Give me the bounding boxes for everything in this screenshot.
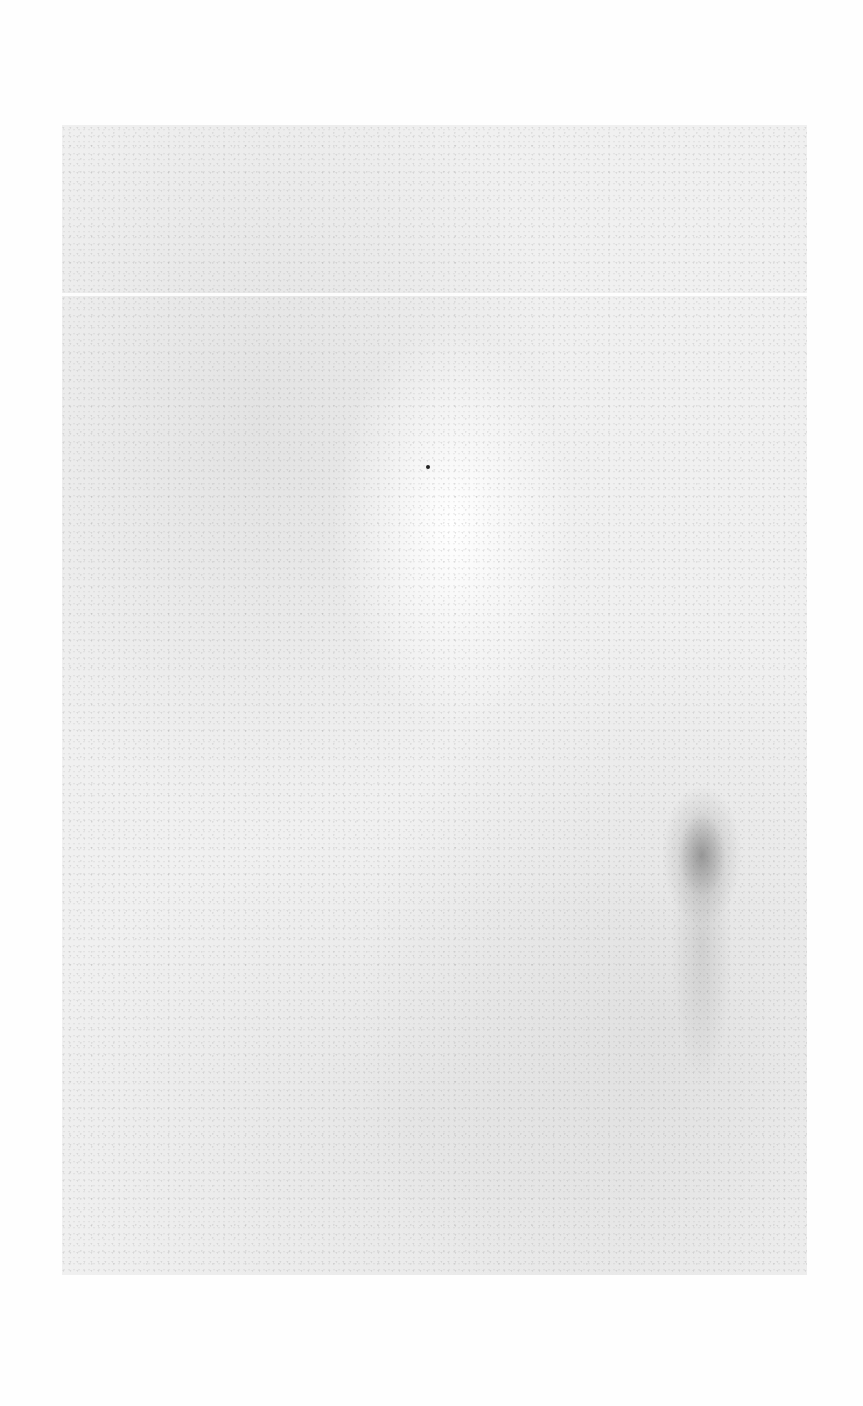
- ink-speck: [426, 465, 430, 469]
- scanned-page: [0, 0, 863, 1406]
- paper-texture: [62, 125, 807, 1275]
- scan-seam-line: [62, 293, 807, 296]
